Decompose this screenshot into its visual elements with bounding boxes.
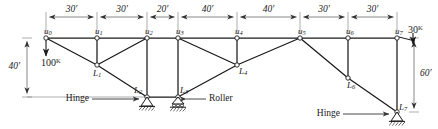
dimension-label-h-0: 30′ (66, 5, 78, 15)
joint-label-L1: L1 (93, 69, 101, 79)
support-symbols (139, 97, 405, 126)
joint-label-u7: u7 (395, 27, 403, 37)
joint-label-u3: u3 (176, 27, 184, 37)
dimension-label-v-0: 40′ (8, 62, 20, 72)
joint-label-u5: u5 (298, 27, 306, 37)
joint-label-L6: L6 (347, 81, 355, 91)
load-label-30k: 30K (408, 25, 423, 35)
dimension-label-h-1: 30′ (116, 5, 128, 15)
truss-svg (0, 0, 438, 129)
support-callout-leaders (92, 99, 389, 114)
joint-label-L7: L7 (399, 103, 407, 113)
joint-label-u1: u1 (95, 27, 103, 37)
dimension-label-h-2: 20′ (157, 5, 169, 15)
support-l3 (170, 97, 186, 111)
joint-label-u2: u2 (145, 27, 153, 37)
dimension-label-h-5: 30′ (318, 5, 330, 15)
support-callout-0: Hinge (66, 94, 89, 104)
dimension-label-v-1: 60′ (420, 69, 432, 79)
support-callout-2: Hinge (317, 109, 340, 119)
dimension-label-h-4: 40′ (263, 5, 275, 15)
joint-label-u6: u6 (346, 27, 354, 37)
dimension-label-h-3: 40′ (202, 5, 214, 15)
joint-label-u0: u0 (44, 27, 52, 37)
joint-label-L3: L3 (180, 86, 188, 96)
truss-diagram: 30′30′20′40′40′30′30′40′60′u0u1u2u3u4u5u… (0, 0, 438, 129)
joint-label-L2: L2 (134, 86, 142, 96)
joint-label-u4: u4 (235, 27, 243, 37)
load-label-100k: 100K (41, 58, 61, 68)
support-l7 (389, 112, 405, 126)
joint-label-L4: L4 (239, 67, 247, 77)
dimension-label-h-6: 30′ (367, 5, 379, 15)
support-l2 (139, 97, 155, 111)
support-callout-1: Roller (209, 94, 233, 104)
